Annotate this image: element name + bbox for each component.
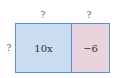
- cell-right: −6: [72, 24, 109, 72]
- cell-left: 10x: [16, 24, 72, 72]
- side-label: ?: [7, 43, 12, 53]
- cell-right-value: −6: [83, 43, 98, 54]
- top-label-left: ?: [41, 10, 46, 20]
- cell-left-value: 10x: [34, 43, 52, 54]
- top-label-right: ?: [87, 10, 92, 20]
- area-model-box: 10x −6: [15, 23, 110, 73]
